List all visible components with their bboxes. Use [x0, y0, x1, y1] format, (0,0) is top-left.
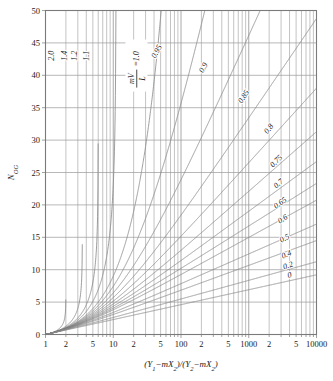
x-tick-label: 5	[294, 339, 298, 349]
svg-text:mV: mV	[127, 72, 136, 84]
y-tick-label: 5	[36, 297, 40, 307]
parameter-label-mv-over-l: mVL=1.0	[125, 40, 147, 92]
x-tick-label: 100	[175, 339, 188, 349]
y-tick-label: 40	[32, 70, 41, 80]
svg-text:2.0: 2.0	[47, 51, 56, 61]
x-tick-label: 2	[64, 339, 68, 349]
y-tick-label: 20	[32, 200, 41, 210]
x-tick-label: 10000	[306, 339, 327, 349]
y-tick-label: 35	[32, 103, 41, 113]
chart-root: 12510251002510002510000 0510152025303540…	[0, 0, 333, 381]
x-tick-label: 5	[226, 339, 230, 349]
x-tick-label: 5	[91, 339, 95, 349]
x-tick-label: 1	[43, 339, 47, 349]
curve-label-1-4: 1.41.4	[60, 51, 69, 61]
x-tick-label: 5	[158, 339, 162, 349]
y-tick-label: 25	[32, 168, 41, 178]
svg-text:L: L	[138, 76, 147, 82]
svg-text:1.1: 1.1	[82, 51, 91, 61]
parameter-label: mVL=1.0	[125, 40, 147, 92]
colburn-chart: 12510251002510002510000 0510152025303540…	[0, 0, 333, 381]
x-tick-label: 2	[199, 339, 203, 349]
y-tick-label: 15	[32, 232, 41, 242]
curve-label-2-0: 2.02.0	[47, 51, 56, 61]
x-tick-label: 2	[132, 339, 136, 349]
y-tick-label: 10	[32, 265, 41, 275]
x-tick-label: 2	[267, 339, 271, 349]
x-tick-label: 1000	[240, 339, 257, 349]
curve-label-1-2: 1.21.2	[70, 51, 79, 61]
y-tick-label: 50	[32, 6, 41, 16]
x-tick-label: 10	[109, 339, 118, 349]
svg-text:1.4: 1.4	[60, 51, 69, 61]
y-tick-label: 0	[36, 330, 40, 340]
y-tick-label: 45	[32, 38, 41, 48]
y-tick-label: 30	[32, 135, 41, 145]
curve-label-1-1: 1.11.1	[82, 51, 91, 61]
svg-text:=1.0: =1.0	[132, 51, 141, 66]
svg-text:1.2: 1.2	[70, 51, 79, 61]
